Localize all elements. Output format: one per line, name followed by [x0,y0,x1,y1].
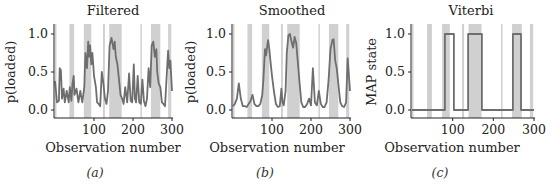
shaded-region [427,24,432,118]
y-tick-label: 1.0 [385,26,405,41]
y-axis-label: MAP state [364,38,379,106]
figure: Filtered 0.00.51.0100200300 p(loaded) Ob… [0,0,553,186]
shaded-region [151,24,160,118]
y-tick-label: 0.5 [206,64,226,79]
x-tick-label: 100 [441,122,465,137]
y-tick-label: 1.0 [28,26,48,41]
shaded-region [55,24,57,118]
shaded-region [69,24,74,118]
y-tick-label: 0.5 [385,64,405,79]
shaded-region [469,24,482,118]
y-tick-label: 0.0 [385,102,405,117]
shaded-regions [55,24,171,118]
shaded-region [318,24,320,118]
shaded-regions [412,24,533,118]
x-tick-label: 100 [260,122,284,137]
x-axis-label: Observation number [384,140,520,155]
shaded-region [412,24,414,118]
x-axis-label: Observation number [45,140,181,155]
shaded-region [103,24,105,118]
y-tick-label: 0.0 [206,102,226,117]
y-tick-label: 0.5 [28,64,48,79]
axes: 0.00.51.0100200300 [28,24,184,137]
y-tick-label: 1.0 [206,26,226,41]
x-tick-label: 300 [522,122,546,137]
panel-caption: (c) [432,165,449,180]
y-axis-label: p(loaded) [183,41,198,104]
chart-title: Smoothed [259,3,326,18]
shaded-region [442,24,450,118]
x-axis-label: Observation number [209,140,345,155]
panel-filtered: Filtered 0.00.51.0100200300 p(loaded) Ob… [3,3,184,180]
shaded-region [530,24,533,118]
x-tick-label: 300 [338,122,362,137]
x-tick-label: 100 [82,122,106,137]
x-tick-label: 200 [121,122,145,137]
chart-title: Viterbi [448,3,494,18]
y-tick-label: 0.0 [28,102,48,117]
x-tick-label: 200 [299,122,323,137]
x-tick-label: 300 [160,122,184,137]
panel-caption: (a) [86,165,103,180]
panel-smoothed: Smoothed 0.00.51.0100200300 p(loaded) Ob… [183,3,362,180]
x-tick-label: 200 [481,122,505,137]
panel-caption: (b) [256,165,274,180]
shaded-region [462,24,464,118]
chart-title: Filtered [87,3,139,18]
y-axis-label: p(loaded) [3,41,18,104]
panel-viterbi: Viterbi 0.00.51.0100200300 MAP state Obs… [364,3,546,180]
shaded-region [501,24,503,118]
